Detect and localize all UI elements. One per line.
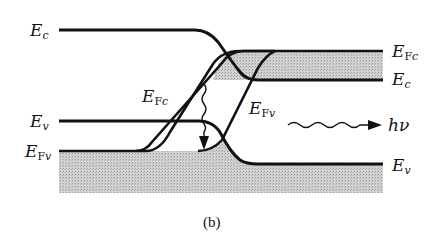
- label-sub: v: [45, 150, 51, 163]
- label-main: E: [392, 41, 404, 61]
- label-sub: v: [42, 120, 48, 133]
- label-left-ec: Ec: [30, 22, 49, 41]
- label-sub: v: [269, 107, 275, 120]
- band-diagram: [0, 0, 437, 250]
- label-photon: hν: [388, 117, 409, 134]
- label-main: E: [392, 69, 404, 89]
- label-sub-f: F: [261, 107, 269, 120]
- label-sub-f: F: [37, 150, 45, 163]
- label-sub: c: [162, 95, 168, 108]
- label-sub: c: [42, 29, 48, 42]
- label-main: E: [25, 141, 37, 161]
- label-main: E: [30, 20, 42, 40]
- label-sub: c: [412, 50, 418, 63]
- label-sub: c: [404, 78, 410, 91]
- label-center-efc: EFc: [142, 88, 168, 107]
- label-right-ec: Ec: [392, 71, 411, 90]
- label-main: E: [249, 98, 261, 118]
- label-main: E: [392, 155, 404, 175]
- label-left-ev: Ev: [30, 113, 49, 132]
- label-sub-f: F: [404, 50, 412, 63]
- photon-arrowhead: [368, 120, 382, 130]
- label-right-ev: Ev: [392, 157, 411, 176]
- label-main: E: [142, 86, 154, 106]
- figure-caption: (b): [203, 214, 221, 231]
- label-sub: v: [404, 164, 410, 177]
- conduction-shading: [213, 51, 383, 80]
- recombination-arrowhead: [199, 136, 209, 150]
- label-center-efv: EFv: [249, 100, 275, 119]
- valence-shading: [59, 140, 383, 193]
- label-left-efv: EFv: [25, 143, 51, 162]
- label-right-efc: EFc: [392, 43, 418, 62]
- recombination-arrow: [202, 84, 206, 140]
- label-main: E: [30, 111, 42, 131]
- photon-wave: [288, 123, 372, 128]
- label-sub-f: F: [154, 95, 162, 108]
